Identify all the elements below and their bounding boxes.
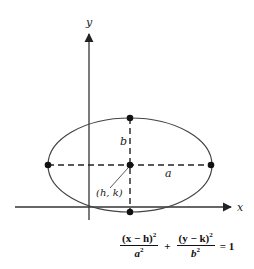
y-term-numerator-exponent: 2 xyxy=(209,231,213,239)
right-vertex-point xyxy=(208,162,215,169)
x-term-numerator-exponent: 2 xyxy=(153,231,157,239)
semi-major-label: a xyxy=(165,167,172,180)
center-leader-line xyxy=(110,168,128,188)
y-term-numerator: (y − k) xyxy=(179,232,210,244)
semi-minor-label: b xyxy=(120,135,127,148)
top-vertex-point xyxy=(127,115,134,122)
bottom-vertex-point xyxy=(127,209,134,216)
x-term-denominator-exponent: 2 xyxy=(140,246,144,254)
ellipse-equation: (x − h)2 a2 + (y − k)2 b2 = 1 xyxy=(120,232,240,259)
y-term-denominator-exponent: 2 xyxy=(197,246,201,254)
fraction-x-term: (x − h)2 a2 xyxy=(120,232,158,259)
ellipse-diagram: y x (h, k) b a xyxy=(0,0,254,269)
center-point xyxy=(127,162,134,169)
plus-sign: + xyxy=(164,240,170,252)
fraction-y-term: (y − k)2 b2 xyxy=(177,232,215,259)
equals-one: = 1 xyxy=(220,240,235,252)
x-term-numerator: (x − h) xyxy=(122,232,153,244)
left-vertex-point xyxy=(45,162,52,169)
x-axis-label: x xyxy=(237,201,244,214)
center-label: (h, k) xyxy=(96,187,123,198)
y-axis-label: y xyxy=(85,16,93,29)
